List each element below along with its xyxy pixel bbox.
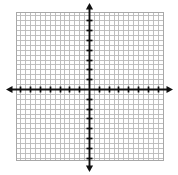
coordinate-plane-svg xyxy=(0,0,178,175)
coordinate-plane-figure: Blank Cartesian coordinate grid with x-a… xyxy=(0,0,178,175)
